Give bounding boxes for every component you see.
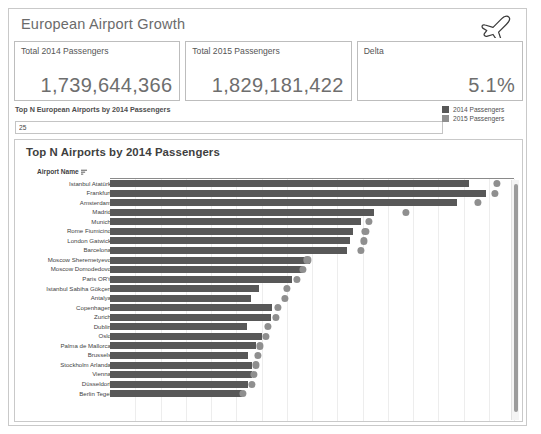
chart-dot-2015[interactable]	[474, 199, 481, 206]
chart-bar-2014[interactable]	[110, 237, 350, 244]
chart-bar-2014[interactable]	[110, 381, 248, 388]
chart-rows: Istanbul AtatürkFrankfurtAmsterdamMadrid…	[15, 179, 522, 399]
chart-bar-2014[interactable]	[110, 180, 469, 187]
chart-row[interactable]: Brussels	[15, 351, 522, 361]
chart-dot-2015[interactable]	[254, 352, 261, 359]
chart-row[interactable]: Berlin Tegel	[15, 389, 522, 399]
chart-dot-2015[interactable]	[281, 295, 288, 302]
chart-dot-2015[interactable]	[272, 314, 279, 321]
chart-row[interactable]: Antalya	[15, 294, 522, 304]
chart-row[interactable]: Munich	[15, 217, 522, 227]
chart-row-label: Istanbul Atatürk	[23, 180, 111, 187]
chart-bar-2014[interactable]	[110, 199, 457, 206]
chart-row-label: Vienna	[23, 370, 111, 377]
chart-dot-2015[interactable]	[493, 180, 500, 187]
chart-row[interactable]: Oslo	[15, 332, 522, 342]
legend-item-2015[interactable]: 2015 Passengers	[442, 115, 520, 122]
chart-bar-2014[interactable]	[110, 333, 262, 340]
chart-bar-2014[interactable]	[110, 209, 374, 216]
chart-bar-2014[interactable]	[110, 190, 486, 197]
sort-descending-icon[interactable]	[81, 169, 87, 175]
chart-plot-area: Istanbul AtatürkFrankfurtAmsterdamMadrid…	[15, 178, 522, 421]
top-n-filter: Top N European Airports by 2014 Passenge…	[15, 105, 443, 137]
chart-dot-2015[interactable]	[304, 256, 311, 263]
chart-row-label: Paris ORY	[23, 275, 111, 282]
chart-row[interactable]: Palma de Mallorca	[15, 341, 522, 351]
chart-bar-2014[interactable]	[110, 295, 251, 302]
chart-bar-2014[interactable]	[110, 218, 361, 225]
chart-row-label: Frankfurt	[23, 189, 111, 196]
chart-dot-2015[interactable]	[299, 266, 306, 273]
chart-row[interactable]: Amsterdam	[15, 198, 522, 208]
chart-row-label: Amsterdam	[23, 199, 111, 206]
chart-bar-2014[interactable]	[110, 247, 347, 254]
chart-dot-2015[interactable]	[250, 371, 257, 378]
legend-label: 2014 Passengers	[453, 106, 504, 113]
column-header-airport-name[interactable]: Airport Name	[37, 168, 87, 175]
chart-legend: 2014 Passengers 2015 Passengers	[442, 106, 520, 124]
kpi-card-delta: Delta 5.1%	[357, 41, 523, 101]
top-n-filter-input[interactable]	[15, 121, 443, 134]
chart-bar-2014[interactable]	[110, 323, 247, 330]
chart-row-label: Istanbul Sabiha Gökçen	[23, 285, 111, 292]
chart-bar-2014[interactable]	[110, 362, 252, 369]
chart-row-label: Madrid	[23, 208, 111, 215]
chart-dot-2015[interactable]	[248, 381, 255, 388]
chart-bar-2014[interactable]	[110, 266, 303, 273]
chart-bar-2014[interactable]	[110, 228, 353, 235]
chart-row[interactable]: Barcelona	[15, 246, 522, 256]
chart-row[interactable]: Rome Fiumicino	[15, 227, 522, 237]
chart-row[interactable]: Paris ORY	[15, 274, 522, 284]
chart-row-label: Düsseldorf	[23, 380, 111, 387]
chart-row[interactable]: Zurich	[15, 313, 522, 323]
chart-bar-2014[interactable]	[110, 342, 256, 349]
chart-bar-2014[interactable]	[110, 352, 248, 359]
chart-row[interactable]: Dublin	[15, 322, 522, 332]
kpi-value: 5.1%	[468, 74, 515, 97]
chart-dot-2015[interactable]	[361, 237, 368, 244]
chart-scrollbar-thumb[interactable]	[514, 184, 518, 412]
kpi-card-total-2014: Total 2014 Passengers 1,739,644,366	[14, 41, 180, 101]
chart-bar-2014[interactable]	[110, 285, 259, 292]
chart-dot-2015[interactable]	[265, 323, 272, 330]
chart-row[interactable]: Copenhagen	[15, 303, 522, 313]
chart-dot-2015[interactable]	[262, 333, 269, 340]
legend-swatch-icon	[442, 106, 449, 113]
chart-bar-2014[interactable]	[110, 390, 242, 397]
chart-dot-2015[interactable]	[362, 228, 369, 235]
chart-row[interactable]: Stockholm Arlanda	[15, 360, 522, 370]
chart-dot-2015[interactable]	[294, 276, 301, 283]
chart-dot-2015[interactable]	[365, 218, 372, 225]
chart-row-label: Copenhagen	[23, 304, 111, 311]
kpi-value: 1,829,181,422	[212, 74, 344, 97]
chart-row[interactable]: London Gatwick	[15, 236, 522, 246]
chart-dot-2015[interactable]	[256, 342, 263, 349]
chart-dot-2015[interactable]	[357, 247, 364, 254]
chart-dot-2015[interactable]	[274, 304, 281, 311]
chart-bar-2014[interactable]	[110, 304, 272, 311]
chart-row-label: Oslo	[23, 332, 111, 339]
chart-row[interactable]: Istanbul Atatürk	[15, 179, 522, 189]
kpi-label: Total 2015 Passengers	[192, 46, 279, 56]
chart-row[interactable]: Moscow Domodedovo	[15, 265, 522, 275]
chart-bar-2014[interactable]	[110, 257, 310, 264]
chart-dot-2015[interactable]	[239, 390, 246, 397]
kpi-label: Total 2014 Passengers	[21, 46, 108, 56]
chart-dot-2015[interactable]	[492, 190, 499, 197]
chart-bar-2014[interactable]	[110, 371, 252, 378]
chart-row[interactable]: Moscow Sheremetyevo	[15, 255, 522, 265]
chart-dot-2015[interactable]	[402, 209, 409, 216]
legend-item-2014[interactable]: 2014 Passengers	[442, 106, 520, 113]
chart-dot-2015[interactable]	[252, 361, 259, 368]
chart-row[interactable]: Vienna	[15, 370, 522, 380]
chart-row-label: Dublin	[23, 323, 111, 330]
chart-row-label: Stockholm Arlanda	[23, 361, 111, 368]
chart-row-label: Zurich	[23, 313, 111, 320]
chart-row[interactable]: Frankfurt	[15, 189, 522, 199]
chart-bar-2014[interactable]	[110, 276, 292, 283]
chart-row[interactable]: Madrid	[15, 208, 522, 218]
chart-row[interactable]: Istanbul Sabiha Gökçen	[15, 284, 522, 294]
chart-dot-2015[interactable]	[283, 285, 290, 292]
chart-bar-2014[interactable]	[110, 314, 271, 321]
chart-row[interactable]: Düsseldorf	[15, 379, 522, 389]
